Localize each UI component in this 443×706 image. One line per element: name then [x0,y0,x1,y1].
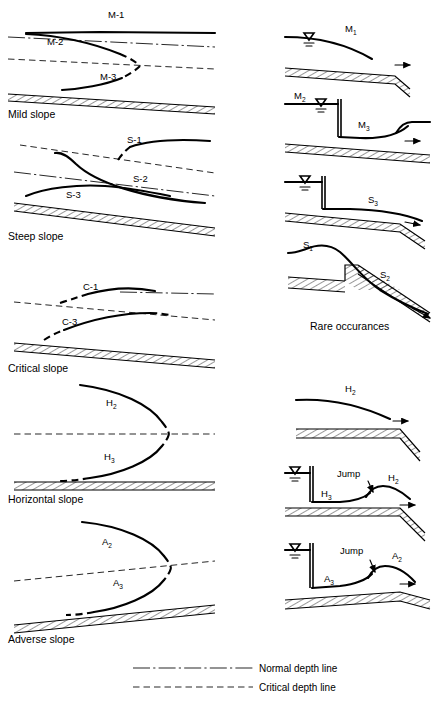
water-surface-profiles-figure: M-1 M-2 M-3 Mild slope S-1 S-2 S-3 Steep… [0,0,443,706]
label-jump-a: Jump [340,545,363,556]
caption-adverse-slope: Adverse slope [8,633,75,645]
label-m1: M-1 [108,9,124,20]
label-c1: C-1 [83,281,98,292]
label-s3: S-3 [66,189,81,200]
label-m2: M-2 [47,36,63,47]
caption-horizontal-slope: Horizontal slope [8,493,83,505]
bed-hatching-horizontal [14,482,215,490]
caption-mild-slope: Mild slope [8,108,55,120]
caption-steep-slope: Steep slope [8,230,64,242]
label-m3: M-3 [100,71,116,82]
legend-label-normal-depth: Normal depth line [259,663,338,674]
caption-rare-occurances: Rare occurances [310,320,389,332]
profile-curve-m1 [26,32,215,33]
caption-critical-slope: Critical slope [8,362,68,374]
label-s2: S-2 [133,173,148,184]
label-jump-h: Jump [337,468,360,479]
legend-label-critical-depth: Critical depth line [259,682,336,693]
label-s1: S-1 [127,134,142,145]
label-c3: C-3 [62,316,77,327]
